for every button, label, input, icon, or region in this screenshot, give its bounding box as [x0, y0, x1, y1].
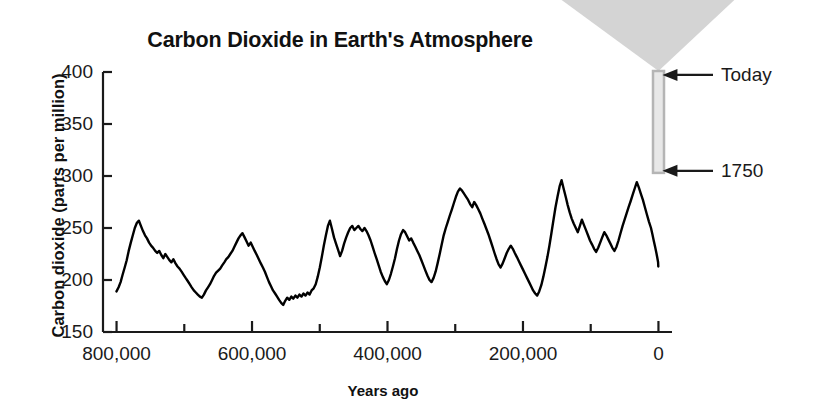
- chart-page: Carbon Dioxide in Earth's Atmosphere Car…: [0, 0, 831, 419]
- annotation-label-today: Today: [721, 65, 772, 84]
- y-tick-label: 300: [37, 166, 93, 185]
- x-tick-label: 800,000: [47, 344, 187, 363]
- y-tick-label: 200: [37, 270, 93, 289]
- modern-rise-box: [653, 71, 664, 173]
- x-tick-label: 200,000: [453, 344, 593, 363]
- x-tick-label: 600,000: [182, 344, 322, 363]
- co2-curve: [117, 180, 659, 305]
- y-ticks: [103, 72, 112, 332]
- x-tick-label: 400,000: [318, 344, 458, 363]
- y-tick-label: 400: [37, 62, 93, 81]
- chart-title: Carbon Dioxide in Earth's Atmosphere: [120, 28, 560, 53]
- annotation-label-1750: 1750: [721, 161, 763, 180]
- x-tick-label: 0: [588, 344, 728, 363]
- axes: [103, 72, 672, 332]
- annotation-arrows: [662, 69, 713, 177]
- y-tick-label: 250: [37, 218, 93, 237]
- x-ticks: [117, 321, 659, 332]
- y-tick-label: 350: [37, 114, 93, 133]
- x-axis-label: Years ago: [103, 382, 663, 399]
- y-axis-label: Carbon dioxide (parts per million): [49, 56, 68, 356]
- y-tick-label: 150: [37, 322, 93, 341]
